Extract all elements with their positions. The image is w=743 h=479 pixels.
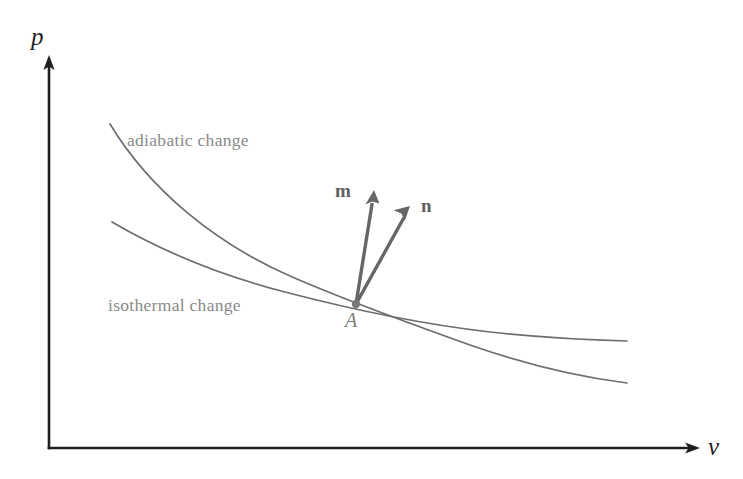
- vector-m-arrowhead-icon: [365, 190, 379, 205]
- adiabatic-curve: [110, 124, 627, 383]
- figure-canvas: [0, 0, 743, 479]
- point-a-marker: [352, 300, 360, 308]
- x-axis-label: v: [708, 434, 719, 459]
- vector-m-label: m: [335, 181, 351, 200]
- adiabatic-curve-label: adiabatic change: [127, 132, 249, 150]
- vector-n-label: n: [421, 196, 432, 215]
- pv-diagram-figure: p v adiabatic change isothermal change m…: [0, 0, 743, 479]
- y-axis-label: p: [31, 24, 44, 49]
- isothermal-curve-label: isothermal change: [108, 297, 241, 315]
- point-a-label: A: [345, 310, 357, 330]
